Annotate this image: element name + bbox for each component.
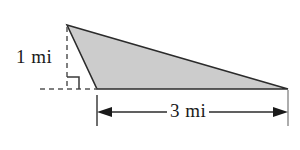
right-angle-marker-icon	[67, 77, 79, 89]
base-dimension-label: 3 mi	[167, 101, 209, 120]
arrowhead-left-icon	[97, 107, 112, 117]
height-dimension-label: 1 mi	[16, 47, 52, 66]
arrowhead-right-icon	[273, 107, 288, 117]
shaded-triangle	[67, 25, 288, 89]
geometry-figure: 1 mi 3 mi	[0, 0, 300, 150]
figure-canvas	[0, 0, 300, 150]
